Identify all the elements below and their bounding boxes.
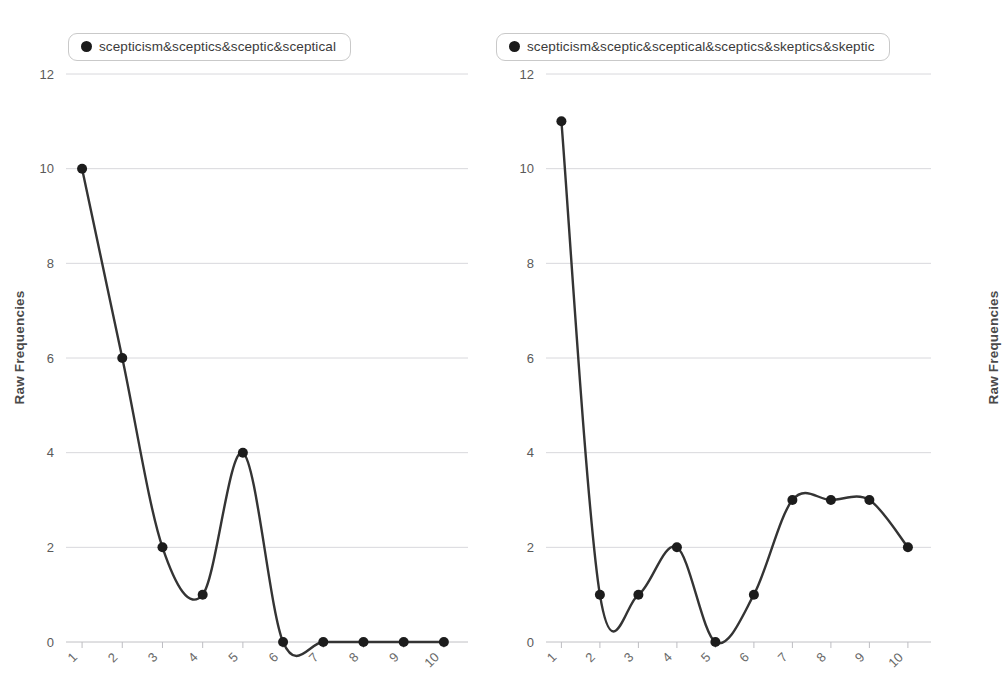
y-tick-label: 8 bbox=[527, 256, 534, 271]
x-tick-label: 1 bbox=[64, 650, 80, 666]
data-point-marker[interactable] bbox=[157, 542, 167, 552]
y-tick-label: 10 bbox=[520, 161, 534, 176]
x-tick-label: 4 bbox=[185, 650, 201, 666]
data-point-marker[interactable] bbox=[556, 116, 566, 126]
data-point-marker[interactable] bbox=[358, 637, 368, 647]
x-tick-label: 4 bbox=[659, 650, 675, 666]
x-tick-label: 9 bbox=[852, 650, 868, 666]
x-tick-label: 8 bbox=[813, 650, 829, 666]
y-tick-label: 0 bbox=[47, 635, 54, 650]
x-tick-label: 5 bbox=[698, 650, 714, 666]
data-point-marker[interactable] bbox=[439, 637, 449, 647]
chart-panel-right: scepticism&sceptic&sceptical&sceptics&sk… bbox=[494, 0, 989, 694]
y-tick-label: 8 bbox=[47, 256, 54, 271]
x-tick-label: 6 bbox=[736, 650, 752, 666]
y-tick-label: 12 bbox=[520, 67, 534, 82]
y-tick-label: 4 bbox=[527, 445, 534, 460]
y-tick-label: 10 bbox=[40, 161, 54, 176]
data-point-marker[interactable] bbox=[77, 164, 87, 174]
data-point-marker[interactable] bbox=[633, 590, 643, 600]
x-tick-label: 10 bbox=[421, 650, 442, 671]
data-point-marker[interactable] bbox=[749, 590, 759, 600]
chart-panel-left: scepticism&sceptics&sceptic&sceptical Ra… bbox=[0, 0, 494, 694]
data-point-marker[interactable] bbox=[826, 495, 836, 505]
x-tick-label: 7 bbox=[775, 650, 791, 666]
data-point-marker[interactable] bbox=[864, 495, 874, 505]
data-point-marker[interactable] bbox=[672, 542, 682, 552]
y-tick-label: 6 bbox=[527, 351, 534, 366]
data-point-marker[interactable] bbox=[278, 637, 288, 647]
y-tick-label: 2 bbox=[527, 540, 534, 555]
x-tick-label: 6 bbox=[265, 650, 281, 666]
x-tick-label: 2 bbox=[105, 650, 121, 666]
data-point-marker[interactable] bbox=[595, 590, 605, 600]
x-tick-label: 2 bbox=[582, 650, 598, 666]
data-point-marker[interactable] bbox=[903, 542, 913, 552]
data-point-marker[interactable] bbox=[238, 448, 248, 458]
x-tick-label: 8 bbox=[346, 650, 362, 666]
data-point-marker[interactable] bbox=[787, 495, 797, 505]
x-tick-label: 3 bbox=[621, 650, 637, 666]
data-point-marker[interactable] bbox=[710, 637, 720, 647]
x-tick-label: 1 bbox=[544, 650, 560, 666]
data-point-marker[interactable] bbox=[117, 353, 127, 363]
y-tick-label: 4 bbox=[47, 445, 54, 460]
y-tick-label: 6 bbox=[47, 351, 54, 366]
series-line bbox=[561, 121, 908, 643]
data-point-marker[interactable] bbox=[399, 637, 409, 647]
x-tick-label: 9 bbox=[386, 650, 402, 666]
plot-area-right: 02468101212345678910 bbox=[494, 0, 989, 694]
y-tick-label: 2 bbox=[47, 540, 54, 555]
y-tick-label: 12 bbox=[40, 67, 54, 82]
data-point-marker[interactable] bbox=[198, 590, 208, 600]
data-point-marker[interactable] bbox=[318, 637, 328, 647]
x-tick-label: 5 bbox=[225, 650, 241, 666]
plot-area-left: 02468101212345678910 bbox=[0, 0, 494, 694]
y-tick-label: 0 bbox=[527, 635, 534, 650]
x-tick-label: 3 bbox=[145, 650, 161, 666]
x-tick-label: 10 bbox=[885, 650, 906, 671]
series-line bbox=[82, 169, 444, 656]
